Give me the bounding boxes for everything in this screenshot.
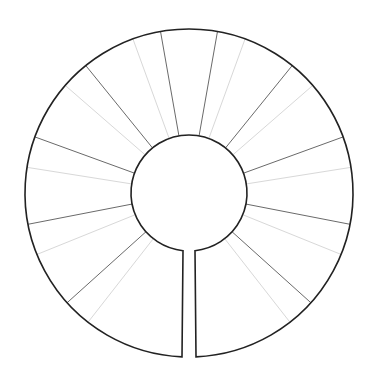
minor-divider-line [243,215,341,255]
major-divider-line [244,137,344,173]
minor-divider-line [233,85,313,155]
ring-outline [25,29,353,357]
wheel-svg [0,0,375,385]
minor-divider-line [225,239,290,323]
major-divider-line [86,66,153,148]
minor-divider-lines [27,39,351,322]
wheel-diagram [0,0,375,385]
minor-divider-line [209,39,245,139]
minor-divider-line [37,215,135,255]
major-divider-line [226,66,293,148]
major-divider-line [67,232,146,303]
minor-divider-line [246,167,351,184]
major-divider-line [161,31,179,135]
minor-divider-line [88,239,153,323]
major-divider-line [28,204,132,224]
minor-divider-line [133,39,169,139]
minor-divider-line [27,167,132,184]
major-divider-line [199,31,217,135]
minor-divider-line [65,85,145,155]
major-divider-lines [28,31,350,302]
major-divider-line [35,137,135,173]
major-divider-line [232,232,311,303]
major-divider-line [246,204,350,224]
